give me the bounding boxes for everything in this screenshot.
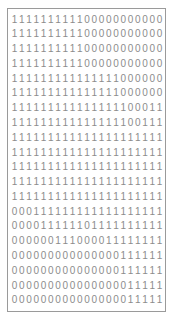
matrix-cell: 1 (134, 220, 141, 232)
matrix-cell: 1 (149, 220, 156, 232)
matrix-cell: 1 (134, 147, 141, 159)
matrix-cell: 1 (113, 147, 120, 159)
matrix-cell: 1 (47, 87, 54, 99)
matrix-cell: 0 (76, 280, 83, 292)
matrix-cell: 1 (149, 176, 156, 188)
matrix-cell: 0 (156, 14, 163, 26)
matrix-cell: 1 (55, 87, 62, 99)
matrix-cell: 0 (105, 28, 112, 40)
matrix-cell: 1 (47, 132, 54, 144)
matrix-cell: 0 (91, 235, 98, 247)
matrix-cell: 0 (105, 250, 112, 262)
matrix-cell: 1 (134, 250, 141, 262)
matrix-cell: 1 (33, 28, 40, 40)
matrix-cell: 1 (55, 28, 62, 40)
matrix-cell: 1 (26, 132, 33, 144)
matrix-cell: 0 (18, 206, 25, 218)
matrix-row: 111111111111111111111 (11, 131, 163, 144)
matrix-cell: 1 (69, 102, 76, 114)
matrix-cell: 0 (62, 265, 69, 277)
matrix-cell: 1 (26, 102, 33, 114)
matrix-cell: 1 (40, 161, 47, 173)
matrix-cell: 1 (76, 28, 83, 40)
matrix-cell: 1 (62, 235, 69, 247)
matrix-cell: 1 (84, 176, 91, 188)
matrix-cell: 1 (62, 87, 69, 99)
matrix-cell: 0 (40, 294, 47, 306)
matrix-cell: 1 (76, 43, 83, 55)
matrix-cell: 0 (18, 235, 25, 247)
matrix-cell: 1 (149, 206, 156, 218)
matrix-cell: 1 (62, 73, 69, 85)
matrix-cell: 0 (134, 87, 141, 99)
matrix-cell: 1 (11, 14, 18, 26)
matrix-cell: 1 (55, 176, 62, 188)
matrix-cell: 0 (149, 43, 156, 55)
matrix-cell: 1 (120, 250, 127, 262)
matrix-cell: 0 (84, 58, 91, 70)
matrix-cell: 0 (134, 58, 141, 70)
matrix-cell: 0 (98, 294, 105, 306)
matrix-cell: 0 (26, 206, 33, 218)
matrix-cell: 1 (69, 73, 76, 85)
matrix-cell: 1 (105, 235, 112, 247)
matrix-cell: 0 (120, 14, 127, 26)
matrix-cell: 1 (11, 73, 18, 85)
matrix-cell: 1 (18, 191, 25, 203)
matrix-cell: 1 (127, 220, 134, 232)
matrix-cell: 0 (113, 294, 120, 306)
matrix-cell: 0 (120, 294, 127, 306)
matrix-cell: 0 (40, 265, 47, 277)
matrix-cell: 0 (98, 265, 105, 277)
matrix-cell: 1 (26, 28, 33, 40)
matrix-row: 111111111111111111111 (11, 190, 163, 203)
matrix-cell: 1 (142, 191, 149, 203)
matrix-cell: 0 (18, 220, 25, 232)
matrix-cell: 1 (134, 265, 141, 277)
matrix-cell: 0 (149, 28, 156, 40)
matrix-cell: 1 (142, 117, 149, 129)
matrix-cell: 0 (18, 265, 25, 277)
matrix-cell: 0 (55, 250, 62, 262)
matrix-cell: 1 (156, 176, 163, 188)
matrix-cell: 0 (33, 250, 40, 262)
matrix-cell: 0 (11, 265, 18, 277)
matrix-cell: 1 (156, 265, 163, 277)
matrix-cell: 1 (11, 147, 18, 159)
matrix-cell: 1 (127, 161, 134, 173)
matrix-row: 000011111101111111111 (11, 220, 163, 233)
matrix-cell: 1 (18, 28, 25, 40)
matrix-cell: 1 (91, 87, 98, 99)
matrix-cell: 1 (120, 220, 127, 232)
matrix-cell: 1 (134, 161, 141, 173)
matrix-cell: 0 (47, 235, 54, 247)
matrix-cell: 0 (62, 294, 69, 306)
matrix-cell: 1 (98, 191, 105, 203)
matrix-cell: 1 (105, 176, 112, 188)
matrix-row: 000111111111111111111 (11, 205, 163, 218)
matrix-cell: 1 (33, 102, 40, 114)
matrix-cell: 0 (84, 43, 91, 55)
matrix-cell: 1 (91, 161, 98, 173)
matrix-cell: 1 (11, 43, 18, 55)
matrix-cell: 1 (76, 117, 83, 129)
matrix-cell: 1 (69, 206, 76, 218)
matrix-cell: 1 (149, 250, 156, 262)
matrix-cell: 0 (11, 294, 18, 306)
matrix-cell: 1 (134, 191, 141, 203)
matrix-cell: 0 (156, 58, 163, 70)
matrix-cell: 1 (134, 280, 141, 292)
matrix-cell: 1 (55, 43, 62, 55)
matrix-cell: 1 (40, 132, 47, 144)
matrix-cell: 1 (120, 161, 127, 173)
matrix-cell: 1 (76, 206, 83, 218)
matrix-cell: 1 (120, 102, 127, 114)
matrix-cell: 1 (40, 206, 47, 218)
matrix-cell: 0 (127, 87, 134, 99)
matrix-cell: 1 (76, 191, 83, 203)
matrix-row: 111111111111111111111 (11, 161, 163, 174)
matrix-cell: 1 (40, 176, 47, 188)
matrix-cell: 0 (127, 73, 134, 85)
matrix-cell: 1 (40, 191, 47, 203)
matrix-cell: 1 (47, 220, 54, 232)
